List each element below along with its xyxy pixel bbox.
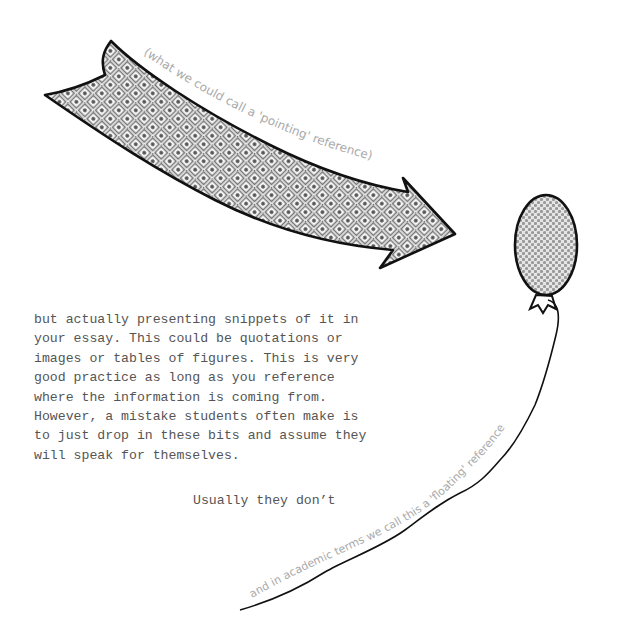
body-line: but actually presenting snippets of it i… <box>34 312 358 327</box>
body-line: images or tables of figures. This is ver… <box>34 351 358 366</box>
body-line: where the information is coming from. <box>34 390 327 405</box>
illustration-canvas: (what we could call a 'pointing' referen… <box>0 0 624 640</box>
body-line: will speak for themselves. <box>34 448 240 463</box>
body-line: to just drop in these bits and assume th… <box>34 428 366 443</box>
closing-line: Usually they don’t <box>193 493 335 508</box>
body-line: good practice as long as you reference <box>34 370 335 385</box>
pointing-arrow <box>45 41 455 268</box>
body-paragraph: but actually presenting snippets of it i… <box>34 310 354 465</box>
body-line: your essay. This could be quotations or <box>34 331 343 346</box>
body-line: However, a mistake students often make i… <box>34 409 358 424</box>
